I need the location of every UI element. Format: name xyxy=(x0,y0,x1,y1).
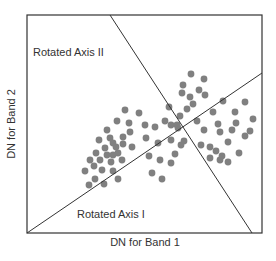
data-point xyxy=(242,99,249,106)
data-point xyxy=(92,176,99,183)
data-point xyxy=(250,116,257,123)
data-point xyxy=(190,101,197,108)
data-point xyxy=(202,92,209,99)
data-point xyxy=(172,151,179,158)
data-point xyxy=(232,109,239,116)
data-point xyxy=(120,134,127,141)
data-point xyxy=(215,121,222,128)
data-point xyxy=(207,144,214,151)
data-point xyxy=(179,90,186,97)
data-point xyxy=(180,82,187,89)
data-point xyxy=(188,71,195,78)
data-point xyxy=(242,133,249,140)
data-point xyxy=(91,163,98,170)
data-point xyxy=(196,87,203,94)
y-axis-label: DN for Band 2 xyxy=(5,89,17,159)
data-point xyxy=(168,137,175,144)
data-point xyxy=(87,157,94,164)
data-point xyxy=(86,182,93,189)
data-point xyxy=(102,145,109,152)
data-point xyxy=(149,170,156,177)
data-point xyxy=(96,137,103,144)
data-point xyxy=(236,150,243,157)
rotated-axis-1-label: Rotated Axis I xyxy=(77,208,145,220)
data-point xyxy=(247,128,254,135)
data-point xyxy=(225,139,232,146)
data-point xyxy=(97,157,104,164)
data-point xyxy=(152,124,159,131)
data-point xyxy=(225,159,232,166)
data-point xyxy=(201,127,208,134)
data-point xyxy=(162,118,169,125)
data-point xyxy=(184,106,191,113)
rotated-axis-2-label: Rotated Axis II xyxy=(33,46,104,58)
data-point xyxy=(119,157,126,164)
data-point xyxy=(198,142,205,149)
data-point xyxy=(146,153,153,160)
data-point xyxy=(136,110,143,117)
data-point xyxy=(104,152,111,159)
data-point xyxy=(126,120,133,127)
data-point xyxy=(157,157,164,164)
scatter-diagram xyxy=(0,0,276,261)
data-point xyxy=(115,176,122,183)
data-point xyxy=(120,141,127,148)
data-point xyxy=(217,157,224,164)
data-point xyxy=(207,155,214,162)
data-point xyxy=(110,152,117,159)
scatter-points xyxy=(82,71,257,189)
data-point xyxy=(159,176,166,183)
data-point xyxy=(143,135,150,142)
data-point xyxy=(114,118,121,125)
data-point xyxy=(187,94,194,101)
data-point xyxy=(82,168,89,175)
data-point xyxy=(113,144,120,151)
data-point xyxy=(122,107,129,114)
data-point xyxy=(108,159,115,166)
data-point xyxy=(168,122,175,129)
data-point xyxy=(129,144,136,151)
data-point xyxy=(168,160,175,167)
data-point xyxy=(99,167,106,174)
data-point xyxy=(104,127,111,134)
data-point xyxy=(217,129,224,136)
data-point xyxy=(142,122,149,129)
data-point xyxy=(181,138,188,145)
data-point xyxy=(233,120,240,127)
data-point xyxy=(127,129,134,136)
data-point xyxy=(201,76,208,83)
data-point xyxy=(229,127,236,134)
x-axis-label: DN for Band 1 xyxy=(0,236,276,248)
data-point xyxy=(213,148,220,155)
data-point xyxy=(93,150,100,157)
data-point xyxy=(210,109,217,116)
